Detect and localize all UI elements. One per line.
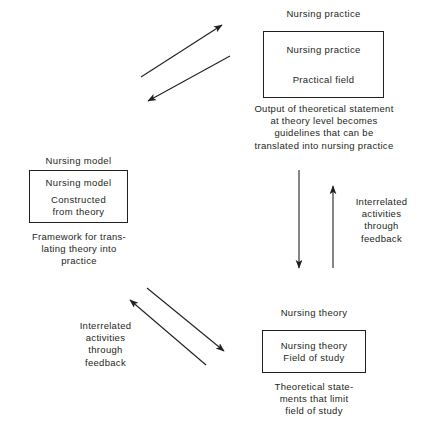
nursing-theory-caption-line-3: field of study bbox=[252, 405, 376, 417]
nursing-model-caption: Framework for trans- lating theory into … bbox=[17, 231, 141, 268]
diagonal-down-right-bottom bbox=[147, 288, 224, 351]
nursing-practice-caption: Output of theoretical statement at theor… bbox=[254, 103, 394, 152]
nursing-model-box: Nursing model Constructed from theory bbox=[29, 170, 128, 223]
bottom-feedback-line-2: activities bbox=[67, 332, 144, 344]
nursing-model-caption-line-3: practice bbox=[17, 255, 141, 267]
bottom-feedback-line-1: Interrelated bbox=[67, 320, 144, 332]
right-feedback-line-1: Interrelated bbox=[344, 196, 419, 208]
diagonal-up-right-top bbox=[141, 25, 222, 77]
nursing-practice-box-line-1: Nursing practice bbox=[264, 44, 383, 57]
nursing-theory-box-line-1: Nursing theory bbox=[263, 340, 365, 353]
nursing-model-caption-line-2: lating theory into bbox=[17, 243, 141, 255]
nursing-model-box-line-2: Constructed bbox=[30, 194, 127, 207]
nursing-practice-box-line-2: Practical field bbox=[264, 74, 383, 87]
diagonal-down-left-top bbox=[148, 56, 230, 101]
right-feedback-line-2: activities bbox=[344, 208, 419, 220]
nursing-theory-heading: Nursing theory bbox=[262, 307, 366, 319]
nursing-theory-box-line-2: Field of study bbox=[263, 352, 365, 365]
right-feedback-line-4: feedback bbox=[344, 233, 419, 245]
nursing-model-box-line-3: from theory bbox=[30, 206, 127, 219]
right-feedback-line-3: through bbox=[344, 220, 419, 232]
nursing-theory-caption: Theoretical state- ments that limit fiel… bbox=[252, 381, 376, 418]
nursing-model-box-line-1: Nursing model bbox=[30, 177, 127, 190]
nursing-model-heading: Nursing model bbox=[29, 155, 128, 167]
diagram-canvas: Nursing practice Nursing practice Practi… bbox=[0, 0, 423, 432]
nursing-practice-box: Nursing practice Practical field bbox=[263, 31, 384, 98]
bottom-feedback-label: Interrelated activities through feedback bbox=[67, 320, 144, 369]
nursing-practice-heading: Nursing practice bbox=[263, 8, 384, 20]
right-feedback-label: Interrelated activities through feedback bbox=[344, 196, 419, 245]
nursing-model-caption-line-1: Framework for trans- bbox=[17, 231, 141, 243]
nursing-theory-caption-line-2: ments that limit bbox=[252, 393, 376, 405]
nursing-theory-caption-line-1: Theoretical state- bbox=[252, 381, 376, 393]
bottom-feedback-line-3: through bbox=[67, 344, 144, 356]
nursing-theory-box: Nursing theory Field of study bbox=[262, 330, 366, 373]
bottom-feedback-line-4: feedback bbox=[67, 357, 144, 369]
